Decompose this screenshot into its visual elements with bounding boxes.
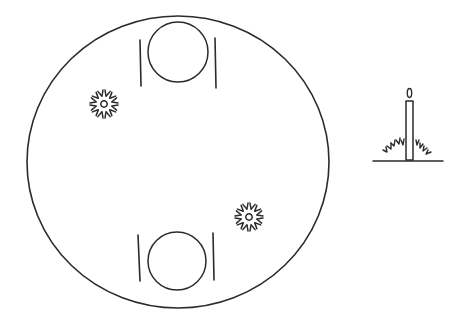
fork-icon — [140, 40, 141, 86]
sunburst-ornament-icon — [90, 90, 118, 118]
candle-elevation — [373, 89, 443, 162]
radiance-marks-left — [383, 138, 404, 152]
bottom-place-setting — [138, 232, 214, 290]
flame-icon — [407, 89, 411, 98]
round-table — [27, 16, 329, 308]
top-place-setting — [140, 22, 216, 88]
fork-icon — [138, 235, 140, 281]
knife-icon — [215, 38, 216, 88]
sunburst-ornament-icon — [235, 203, 263, 231]
table-setting-diagram — [0, 0, 460, 319]
plate-icon — [148, 22, 208, 82]
radiance-marks-right — [416, 140, 431, 154]
candle-icon — [406, 101, 413, 160]
plate-icon — [148, 232, 206, 290]
knife-icon — [213, 233, 214, 280]
